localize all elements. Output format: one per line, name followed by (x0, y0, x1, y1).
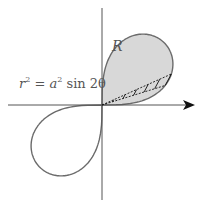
diagram-canvas (0, 0, 201, 203)
equation-label: r2 = a2 sin 2θ (19, 75, 106, 91)
lemniscate-diagram: R r2 = a2 sin 2θ (0, 0, 201, 203)
lower-lobe (31, 105, 102, 176)
region-label: R (112, 38, 123, 54)
